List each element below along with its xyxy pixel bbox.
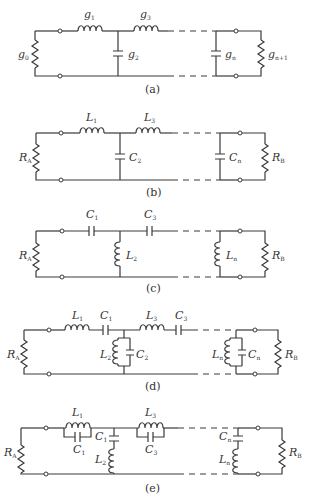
input-terminal-top	[44, 426, 48, 430]
circuit-b-lowpass: RA L1 C2 L3 Cn RB (b)	[18, 111, 285, 199]
input-terminal-top	[58, 29, 62, 33]
capacitor-icon	[176, 325, 181, 335]
input-terminal-bottom	[60, 275, 64, 279]
svg-text:gn: gn	[225, 48, 236, 61]
resistor-icon	[33, 243, 39, 271]
svg-text:Ln: Ln	[218, 453, 230, 466]
inductor-icon	[233, 449, 238, 473]
svg-text:RB: RB	[288, 446, 302, 459]
circuit-a-lowpass-prototype: g0 g1 g2 g3 gn gn+1 (a)	[18, 8, 288, 96]
svg-text:g1: g1	[84, 8, 95, 21]
svg-text:C3: C3	[175, 309, 187, 322]
svg-text:RB: RB	[271, 151, 285, 164]
inductor-icon	[134, 26, 158, 31]
resistor-icon	[279, 440, 285, 468]
input-terminal-bottom	[47, 372, 51, 376]
caption-b: (b)	[146, 186, 162, 199]
output-terminal-top	[253, 328, 257, 332]
inductor-icon	[225, 340, 230, 364]
resistor-icon	[32, 40, 38, 68]
resistor-icon	[18, 445, 24, 473]
svg-text:C2: C2	[129, 151, 141, 164]
circuit-d-bandpass: RA L1 C1 L2 C2 L3 C3 Ln Cn RB (d)	[6, 309, 298, 393]
svg-text:g3: g3	[140, 8, 151, 21]
svg-text:g0: g0	[18, 48, 29, 61]
caption-c: (c)	[146, 282, 161, 295]
inductor-icon	[80, 128, 104, 133]
svg-text:L3: L3	[143, 111, 155, 124]
svg-text:L2: L2	[99, 348, 111, 361]
svg-text:Cn: Cn	[219, 430, 231, 443]
svg-text:L3: L3	[144, 406, 156, 419]
capacitor-icon	[103, 325, 108, 335]
capacitor-icon	[113, 51, 123, 56]
output-terminal-bottom	[256, 472, 260, 476]
resistor-icon	[21, 340, 27, 368]
capacitor-icon	[75, 432, 80, 442]
resistor-icon	[262, 243, 268, 271]
capacitor-icon	[148, 432, 153, 442]
capacitor-icon	[126, 350, 134, 355]
svg-text:RA: RA	[6, 348, 20, 361]
input-terminal-top	[59, 131, 63, 135]
capacitor-icon	[147, 226, 152, 236]
circuit-e-bandstop: RA L1 C1 C1 L2 L3 C3 Cn Ln RB (e)	[3, 406, 302, 495]
resistor-icon	[262, 144, 268, 172]
capacitor-icon	[115, 154, 125, 159]
input-terminal-bottom	[58, 74, 62, 78]
inductor-icon	[65, 325, 89, 330]
svg-text:Cn: Cn	[248, 348, 260, 361]
output-terminal-top	[234, 29, 238, 33]
inductor-icon	[109, 449, 114, 473]
inductor-icon	[115, 242, 120, 266]
inductor-icon	[78, 26, 102, 31]
output-terminal-bottom	[253, 372, 257, 376]
output-terminal-bottom	[238, 178, 242, 182]
output-terminal-top	[256, 426, 260, 430]
output-terminal-bottom	[234, 74, 238, 78]
svg-text:C2: C2	[136, 348, 148, 361]
svg-text:C1: C1	[73, 443, 85, 456]
resistor-icon	[275, 340, 281, 368]
inductor-icon	[215, 242, 220, 266]
svg-text:RB: RB	[284, 348, 298, 361]
input-terminal-bottom	[59, 178, 63, 182]
svg-text:Cn: Cn	[229, 151, 241, 164]
svg-text:L1: L1	[85, 111, 97, 124]
svg-text:L2: L2	[125, 249, 137, 262]
output-terminal-top	[238, 229, 242, 233]
inductor-icon	[66, 423, 90, 428]
capacitor-icon	[215, 154, 225, 159]
inductor-icon	[139, 423, 163, 428]
resistor-icon	[33, 144, 39, 172]
capacitor-icon	[233, 436, 243, 441]
svg-text:RA: RA	[18, 249, 32, 262]
input-terminal-top	[60, 229, 64, 233]
svg-text:Ln: Ln	[225, 249, 237, 262]
capacitor-icon	[211, 51, 221, 56]
caption-d: (d)	[145, 380, 161, 393]
filter-circuits-figure: g0 g1 g2 g3 gn gn+1 (a) RA L1	[0, 0, 309, 502]
resistor-icon	[258, 40, 264, 68]
output-terminal-top	[238, 131, 242, 135]
input-terminal-bottom	[44, 472, 48, 476]
svg-text:RA: RA	[18, 151, 32, 164]
svg-text:C1: C1	[86, 208, 98, 221]
svg-text:gn+1: gn+1	[268, 48, 288, 61]
caption-e: (e)	[145, 482, 160, 495]
svg-text:C3: C3	[145, 443, 157, 456]
svg-text:RB: RB	[271, 249, 285, 262]
svg-text:g2: g2	[128, 48, 139, 61]
circuit-c-highpass: RA C1 L2 C3 Ln RB (c)	[18, 208, 285, 295]
caption-a: (a)	[145, 83, 160, 96]
inductor-icon	[136, 128, 160, 133]
svg-text:L2: L2	[94, 453, 106, 466]
output-terminal-bottom	[238, 275, 242, 279]
capacitor-icon	[109, 436, 119, 441]
inductor-icon	[113, 340, 118, 364]
svg-text:C1: C1	[100, 309, 112, 322]
svg-text:C1: C1	[95, 430, 107, 443]
svg-text:Ln: Ln	[211, 348, 223, 361]
svg-text:L1: L1	[71, 309, 83, 322]
svg-text:C3: C3	[144, 208, 156, 221]
